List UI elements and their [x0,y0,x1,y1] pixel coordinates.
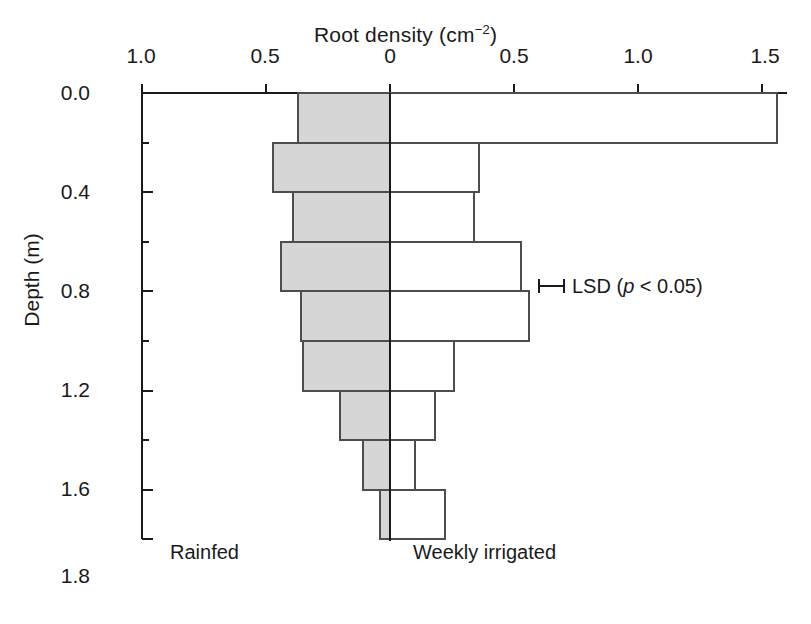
lsd-label-pre: LSD ( [572,275,623,297]
weekly-irrigated-bar [390,341,454,391]
weekly-irrigated-bar [390,242,521,292]
right-group-label: Weekly irrigated [413,541,556,564]
rainfed-bar [380,490,390,540]
rainfed-bar [363,440,390,490]
rainfed-bar [281,242,390,292]
weekly-irrigated-bar [390,391,435,441]
rainfed-bar [298,93,390,143]
lsd-label-italic-p: p [623,275,634,297]
plot-area [0,0,811,624]
weekly-irrigated-bars [390,93,777,539]
weekly-irrigated-bar [390,291,529,341]
left-group-label: Rainfed [170,541,239,564]
weekly-irrigated-bar [390,192,474,242]
weekly-irrigated-bar [390,490,445,540]
weekly-irrigated-bar [390,93,777,143]
rainfed-bar [301,291,390,341]
lsd-label: LSD (p < 0.05) [572,275,703,298]
rainfed-bar [340,391,390,441]
weekly-irrigated-bar [390,440,415,490]
rainfed-bar [303,341,390,391]
root-density-figure: Root density (cm−2) Depth (m) 1.0 0.5 0 … [0,0,811,624]
rainfed-bars [273,93,390,539]
weekly-irrigated-bar [390,143,479,193]
lsd-label-post: < 0.05) [634,275,702,297]
lsd-marker [539,279,564,293]
rainfed-bar [293,192,390,242]
rainfed-bar [273,143,390,193]
